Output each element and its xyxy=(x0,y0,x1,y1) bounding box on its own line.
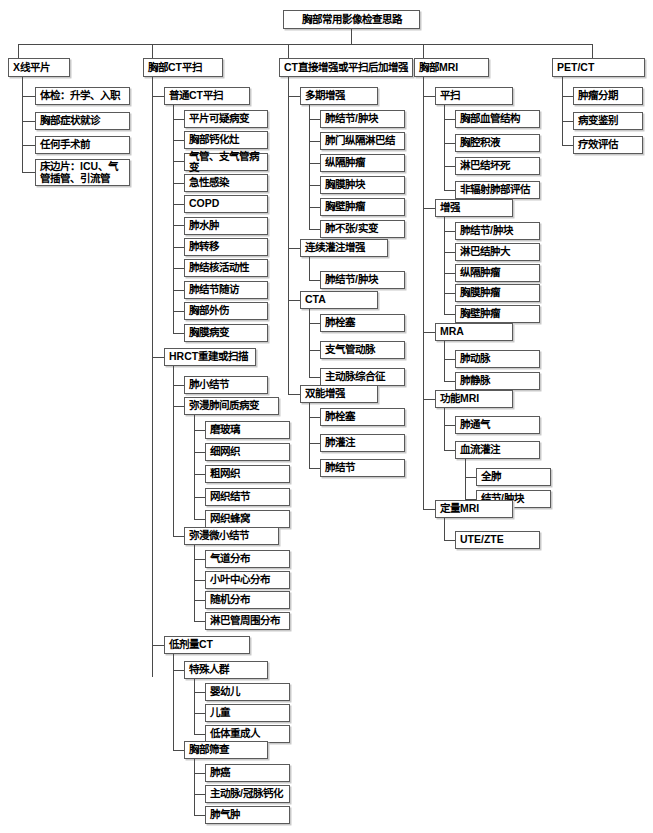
connector xyxy=(173,536,184,537)
node-hrct-recon-or-scan[interactable]: HRCT重建或扫描 xyxy=(164,348,256,366)
node-pulmonary-embolism-cta[interactable]: 肺栓塞 xyxy=(320,314,405,332)
node-pulmonary-embolism-de[interactable]: 肺栓塞 xyxy=(320,408,405,426)
node-label: 细网织 xyxy=(210,446,285,458)
node-functional-mri[interactable]: 功能MRI xyxy=(435,390,513,408)
node-routine-ct-plain[interactable]: 普通CT平扫 xyxy=(164,87,250,105)
node-nodule-mass-mp[interactable]: 肺结节/肿块 xyxy=(320,110,405,128)
node-tb-activity[interactable]: 肺结核活动性 xyxy=(184,259,268,277)
node-mri-enhanced[interactable]: 增强 xyxy=(435,199,513,217)
node-ute-zte[interactable]: UTE/ZTE xyxy=(455,531,540,549)
node-chest-wall-tumor-mri[interactable]: 胸壁肿瘤 xyxy=(455,305,540,323)
node-fine-reticular[interactable]: 细网织 xyxy=(205,443,290,461)
node-centrilobular-distribution[interactable]: 小叶中心分布 xyxy=(205,571,290,589)
node-pet-ct[interactable]: PET/CT xyxy=(552,58,645,77)
node-atelectasis-consolidation[interactable]: 肺不张/实变 xyxy=(320,220,405,238)
node-pulmonary-edema[interactable]: 肺水肿 xyxy=(184,217,268,235)
node-lung-ventilation[interactable]: 肺通气 xyxy=(455,416,540,434)
node-mediastinal-tumor-ct[interactable]: 纵隔肿瘤 xyxy=(320,154,405,172)
node-label: 定量MRI xyxy=(440,503,508,515)
node-label: 肺结节/肿块 xyxy=(325,274,400,286)
node-mra[interactable]: MRA xyxy=(435,323,513,341)
node-chest-ct-plain[interactable]: 胸部CT平扫 xyxy=(143,58,223,77)
node-label: 肺结节随访 xyxy=(189,284,263,296)
node-aorta-coronary-calcification[interactable]: 主动脉/冠脉钙化 xyxy=(205,785,290,803)
node-label: 平片可疑病变 xyxy=(189,113,263,125)
node-lesion-differentiation[interactable]: 病变鉴别 xyxy=(573,112,643,130)
node-radiation-free-lung-eval[interactable]: 非辐射肺部评估 xyxy=(455,181,540,199)
node-low-dose-ct[interactable]: 低剂量CT xyxy=(164,636,250,654)
node-cta[interactable]: CTA xyxy=(300,291,378,309)
node-airway-bronchial-lesion[interactable]: 气管、支气管病变 xyxy=(184,153,268,171)
node-lung-perfusion-de[interactable]: 肺灌注 xyxy=(320,434,405,452)
node-pleural-lesion[interactable]: 胸膜病变 xyxy=(184,324,268,342)
node-bronchial-artery[interactable]: 支气管动脉 xyxy=(320,341,405,359)
node-label: 粗网织 xyxy=(210,468,285,480)
node-lung-metastasis[interactable]: 肺转移 xyxy=(184,238,268,256)
node-children[interactable]: 儿童 xyxy=(205,704,290,722)
connector xyxy=(173,385,184,386)
node-suspected-lesion-on-film[interactable]: 平片可疑病变 xyxy=(184,110,268,128)
node-lymphadenopathy[interactable]: 淋巴结肿大 xyxy=(455,243,540,261)
connector xyxy=(194,545,195,621)
node-blood-flow-perfusion[interactable]: 血流灌注 xyxy=(455,441,540,459)
node-airway-distribution[interactable]: 气道分布 xyxy=(205,550,290,568)
node-multiphase-enhancement[interactable]: 多期增强 xyxy=(300,87,378,105)
connector xyxy=(173,670,184,671)
node-continuous-perfusion-enhancement[interactable]: 连续灌注增强 xyxy=(300,239,388,257)
node-mri-plain[interactable]: 平扫 xyxy=(435,87,513,105)
node-tumor-staging[interactable]: 肿瘤分期 xyxy=(573,87,643,105)
node-lung-cancer[interactable]: 肺癌 xyxy=(205,764,290,782)
node-reticulonodular[interactable]: 网织结节 xyxy=(205,488,290,506)
node-label: 胸壁肿瘤 xyxy=(325,201,400,213)
node-random-distribution[interactable]: 随机分布 xyxy=(205,591,290,609)
node-emphysema[interactable]: 肺气肿 xyxy=(205,806,290,824)
node-nodule-mass-perfusion[interactable]: 肺结节/肿块 xyxy=(320,271,405,289)
node-pleural-mass[interactable]: 胸膜肿块 xyxy=(320,176,405,194)
node-special-population[interactable]: 特殊人群 xyxy=(184,661,268,679)
node-label: UTE/ZTE xyxy=(460,534,535,546)
node-infants[interactable]: 婴幼儿 xyxy=(205,683,290,701)
node-chest-symptom-visit[interactable]: 胸部症状就诊 xyxy=(35,112,130,130)
node-dual-energy-enhancement[interactable]: 双能增强 xyxy=(300,385,378,403)
node-label: 主动脉/冠脉钙化 xyxy=(210,788,285,800)
node-lung-nodule-de[interactable]: 肺结节 xyxy=(320,459,405,477)
node-acute-infection[interactable]: 急性感染 xyxy=(184,174,268,192)
node-ground-glass[interactable]: 磨玻璃 xyxy=(205,421,290,439)
node-diffuse-interstitial-disease[interactable]: 弥漫肺间质病变 xyxy=(184,397,279,415)
node-mediastinal-tumor-mri[interactable]: 纵隔肿瘤 xyxy=(455,264,540,282)
node-reticular-honeycomb[interactable]: 网织蜂窝 xyxy=(205,510,290,528)
node-chest-calcification[interactable]: 胸部钙化灶 xyxy=(184,131,268,149)
node-small-pulmonary-nodule[interactable]: 肺小结节 xyxy=(184,376,268,394)
node-hilar-mediastinal-nodes[interactable]: 肺门纵隔淋巴结 xyxy=(320,132,405,150)
node-whole-lung[interactable]: 全肺 xyxy=(476,468,551,486)
node-root[interactable]: 胸部常用影像检查思路 xyxy=(283,10,420,29)
node-ct-enhanced[interactable]: CT直接增强或平扫后加增强 xyxy=(279,58,413,77)
node-pulmonary-vein[interactable]: 肺静脉 xyxy=(455,372,540,390)
node-perilymphatic-distribution[interactable]: 淋巴管周围分布 xyxy=(205,612,290,630)
node-label: 体检：升学、入职 xyxy=(40,90,125,102)
node-chest-trauma[interactable]: 胸部外伤 xyxy=(184,302,268,320)
node-xray-plain-film[interactable]: X线平片 xyxy=(8,58,70,77)
node-chest-wall-tumor-ct[interactable]: 胸壁肿瘤 xyxy=(320,198,405,216)
node-pre-surgery[interactable]: 任何手术前 xyxy=(35,136,130,154)
node-pulmonary-artery[interactable]: 肺动脉 xyxy=(455,350,540,368)
node-lymph-node-necrosis[interactable]: 淋巴结坏死 xyxy=(455,157,540,175)
node-physical-exam[interactable]: 体检：升学、入职 xyxy=(35,87,130,105)
node-treatment-response[interactable]: 疗效评估 xyxy=(573,136,643,154)
node-coarse-reticular[interactable]: 粗网织 xyxy=(205,465,290,483)
node-nodule-mass-mri[interactable]: 肺结节/肿块 xyxy=(455,222,540,240)
node-chest-vasculature[interactable]: 胸部血管结构 xyxy=(455,110,540,128)
node-copd[interactable]: COPD xyxy=(184,195,268,213)
connector xyxy=(18,44,19,58)
node-bedside-film[interactable]: 床边片：ICU、气 管插管、引流管 xyxy=(35,159,130,186)
node-diffuse-micronodules[interactable]: 弥漫微小结节 xyxy=(184,527,279,545)
node-pleural-tumor-mri[interactable]: 胸膜肿瘤 xyxy=(455,284,540,302)
connector xyxy=(423,44,424,58)
node-nodule-followup[interactable]: 肺结节随访 xyxy=(184,281,268,299)
node-chest-screening[interactable]: 胸部筛查 xyxy=(184,741,268,759)
node-aortic-syndrome[interactable]: 主动脉综合征 xyxy=(320,368,405,386)
node-quantitative-mri[interactable]: 定量MRI xyxy=(435,500,513,518)
node-pleural-effusion[interactable]: 胸腔积液 xyxy=(455,134,540,152)
connector xyxy=(423,77,424,509)
node-chest-mri[interactable]: 胸部MRI xyxy=(414,58,489,77)
